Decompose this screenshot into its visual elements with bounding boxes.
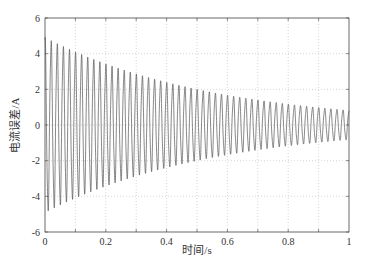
current-error-chart: 00.20.40.60.81 -6-4-20246 时间/s 电流误差/A (0, 0, 365, 270)
x-tick-label: 0.8 (282, 236, 295, 247)
x-tick-label: 0.2 (100, 236, 113, 247)
grid-lines (45, 18, 349, 232)
y-tick-label: -4 (32, 191, 40, 202)
y-axis-label: 电流误差/A (8, 97, 21, 152)
x-axis-label: 时间/s (182, 244, 211, 256)
y-tick-label: 6 (35, 13, 40, 24)
y-tick-label: 0 (35, 120, 40, 131)
y-tick-label: 2 (35, 84, 40, 95)
x-tick-label: 0.4 (160, 236, 173, 247)
y-tick-label: -2 (32, 155, 40, 166)
x-tick-label: 0 (43, 236, 48, 247)
y-axis-ticks: -6-4-20246 (32, 13, 349, 238)
y-tick-label: 4 (35, 48, 40, 59)
x-tick-label: 0.6 (221, 236, 234, 247)
y-tick-label: -6 (32, 227, 40, 238)
x-tick-label: 1 (347, 236, 352, 247)
